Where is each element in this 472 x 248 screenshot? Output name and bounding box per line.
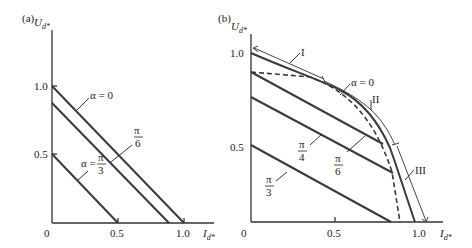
panel-b-label-pi4-num: π (299, 138, 305, 150)
panel-a-line-alpha-0 (52, 86, 184, 223)
panel-a-y-label: Ud* (34, 16, 50, 31)
panel-b-label-region-I: I (301, 46, 305, 58)
panel-a-label-pi3-prefix: α = (81, 157, 96, 169)
panel-a-tag: (a) (22, 12, 35, 25)
panel-b-x-label: Id* (439, 227, 452, 242)
panel-b-boundary-I (254, 48, 324, 79)
panel-b-ytick-05: 0.5 (230, 141, 244, 153)
panel-b-label-region-III: III (415, 164, 426, 176)
diagram-canvas: (a) Ud* 1.0 0.5 0 0.5 1.0 Id* α = 0 π 6 … (0, 0, 472, 248)
panel-a-origin: 0 (44, 227, 50, 239)
panel-b-label-pi6-den: 6 (335, 165, 341, 177)
panel-a: (a) Ud* 1.0 0.5 0 0.5 1.0 Id* α = 0 π 6 … (22, 12, 215, 242)
panel-b-ytick-1: 1.0 (230, 47, 244, 59)
panel-a-line-alpha-pi6 (52, 103, 169, 223)
panel-b-origin: 0 (241, 227, 247, 239)
panel-b-y-label: Ud* (231, 20, 247, 35)
panel-b: (b) Ud* 1.0 0.5 0 0.5 1.0 Id* I α = 0 (218, 12, 452, 242)
panel-a-label-pi6-den: 6 (135, 137, 141, 149)
panel-b-label-pi4-den: 4 (299, 151, 305, 163)
panel-b-curve-alpha-0 (251, 53, 415, 222)
panel-b-label-pi3-num: π (266, 173, 272, 185)
panel-b-label-region-II: II (372, 93, 380, 105)
panel-a-xtick-05: 0.5 (110, 227, 124, 239)
panel-b-xtick-1: 1.0 (412, 227, 426, 239)
panel-a-label-pi6-num: π (134, 124, 140, 136)
panel-a-label-pi3-den: 3 (98, 164, 104, 176)
panel-a-label-alpha0: α = 0 (90, 89, 113, 101)
panel-b-tag: (b) (218, 12, 231, 25)
panel-a-x-label: Id* (202, 227, 215, 242)
panel-b-line-alpha-pi3 (251, 145, 391, 222)
panel-a-xtick-1: 1.0 (176, 227, 190, 239)
panel-a-ytick-1: 1.0 (34, 80, 48, 92)
panel-b-xtick-05: 0.5 (327, 227, 341, 239)
panel-b-label-alpha0: α = 0 (351, 76, 374, 88)
panel-b-label-pi3-den: 3 (266, 186, 272, 198)
panel-a-label-pi3-num: π (98, 151, 104, 163)
panel-b-line-alpha-pi4 (251, 97, 393, 173)
panel-b-label-pi6-num: π (335, 152, 341, 164)
panel-a-ytick-05: 0.5 (34, 148, 48, 160)
